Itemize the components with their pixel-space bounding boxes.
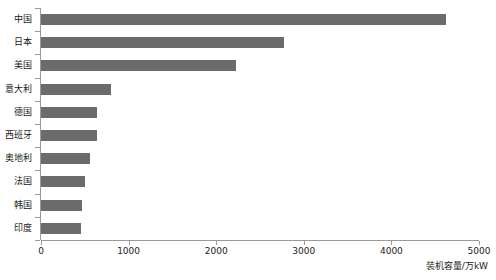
- x-axis-tick-label: 4000: [380, 247, 403, 256]
- bar-印度[interactable]: [41, 223, 81, 234]
- bar-row: [41, 147, 479, 170]
- category-label-法国: 法国: [0, 170, 36, 193]
- y-axis-tick: [35, 31, 40, 32]
- bar-美国[interactable]: [41, 60, 236, 71]
- x-axis-tick-label: 2000: [205, 247, 228, 256]
- bar-意大利[interactable]: [41, 84, 111, 95]
- x-axis-tick-label: 1000: [117, 247, 140, 256]
- bar-row: [41, 101, 479, 124]
- bar-法国[interactable]: [41, 176, 85, 187]
- bar-chart: 中国日本美国意大利德国西班牙奥地利法国韩国印度 0100020003000400…: [0, 0, 496, 280]
- y-axis-tick: [35, 147, 40, 148]
- category-label-中国: 中国: [0, 8, 36, 31]
- x-axis-tick: [479, 241, 480, 245]
- x-axis-tick: [129, 241, 130, 245]
- y-axis-tick: [35, 54, 40, 55]
- category-label-印度: 印度: [0, 217, 36, 240]
- bar-奥地利[interactable]: [41, 153, 90, 164]
- x-axis-tick: [41, 241, 42, 245]
- category-axis-labels: 中国日本美国意大利德国西班牙奥地利法国韩国印度: [0, 8, 36, 240]
- y-axis-tick: [35, 78, 40, 79]
- x-axis-line: [41, 240, 479, 241]
- bar-row: [41, 31, 479, 54]
- bar-row: [41, 170, 479, 193]
- y-axis-tick: [35, 217, 40, 218]
- category-label-日本: 日本: [0, 31, 36, 54]
- category-label-奥地利: 奥地利: [0, 147, 36, 170]
- category-label-韩国: 韩国: [0, 194, 36, 217]
- bar-德国[interactable]: [41, 107, 97, 118]
- bar-rows: [41, 8, 479, 240]
- x-axis-tick-label: 0: [38, 247, 44, 256]
- x-axis-tick: [304, 241, 305, 245]
- bar-row: [41, 217, 479, 240]
- y-axis-tick: [35, 170, 40, 171]
- y-axis-tick: [35, 8, 40, 9]
- x-axis-tick-label: 3000: [292, 247, 315, 256]
- x-axis-tick: [391, 241, 392, 245]
- x-axis-title: 装机容量/万kW: [426, 262, 488, 271]
- y-axis-tick: [35, 194, 40, 195]
- category-label-美国: 美国: [0, 54, 36, 77]
- bar-row: [41, 8, 479, 31]
- category-label-西班牙: 西班牙: [0, 124, 36, 147]
- bar-row: [41, 194, 479, 217]
- bar-韩国[interactable]: [41, 200, 82, 211]
- x-axis-tick: [216, 241, 217, 245]
- y-axis-tick: [35, 101, 40, 102]
- bar-中国[interactable]: [41, 14, 446, 25]
- bar-row: [41, 124, 479, 147]
- plot-area: [41, 8, 479, 240]
- bar-西班牙[interactable]: [41, 130, 97, 141]
- category-label-德国: 德国: [0, 101, 36, 124]
- bar-row: [41, 54, 479, 77]
- bar-row: [41, 78, 479, 101]
- y-axis-tick: [35, 240, 40, 241]
- bar-日本[interactable]: [41, 37, 284, 48]
- y-axis-tick: [35, 124, 40, 125]
- x-axis-tick-label: 5000: [468, 247, 491, 256]
- category-label-意大利: 意大利: [0, 78, 36, 101]
